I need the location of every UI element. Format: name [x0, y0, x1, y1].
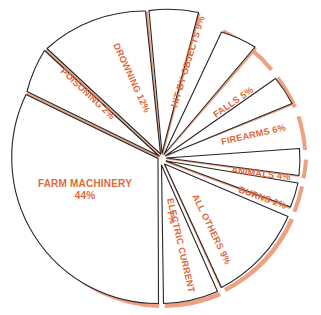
label-farm-machinery: FARM MACHINERY — [38, 178, 132, 189]
shadow-firearms — [297, 116, 308, 150]
label-farm-machinery-value: 44% — [75, 190, 96, 201]
pie-chart-canvas: FARM MACHINERY 44% POISONING 2% DROWNING… — [0, 0, 321, 315]
shadow-animals — [302, 160, 309, 179]
pie-chart: FARM MACHINERY 44% POISONING 2% DROWNING… — [0, 0, 321, 315]
